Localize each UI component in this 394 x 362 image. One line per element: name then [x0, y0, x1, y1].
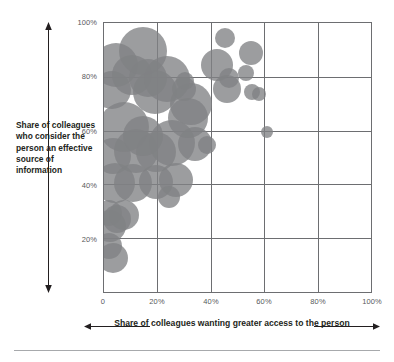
chart-root: Share of colleagues who consider the per… [0, 0, 394, 362]
x-tick-label-60: 60% [244, 297, 284, 306]
y-tick-label-20: 20% [45, 235, 97, 244]
gridline-vertical [371, 23, 372, 292]
bubble-point [261, 126, 273, 138]
bubble-point [158, 186, 180, 208]
x-tick-label-80: 80% [298, 297, 338, 306]
bubble-point [238, 65, 254, 81]
bottom-divider [14, 350, 380, 351]
x-axis-block: Share of colleagues wanting greater acce… [82, 318, 382, 348]
x-axis-title: Share of colleagues wanting greater acce… [82, 318, 382, 330]
bubble-point [198, 136, 216, 154]
bubble-series [104, 23, 371, 292]
y-tick-label-60: 60% [45, 127, 97, 136]
bubble-point [252, 87, 266, 101]
x-tick-label-0: 0 [83, 297, 123, 306]
bubble-point [119, 27, 167, 75]
bubble-point [239, 41, 263, 65]
y-tick-label-80: 80% [45, 72, 97, 81]
bubble-point [215, 28, 235, 48]
x-tick-label-20: 20% [137, 297, 177, 306]
bubble-point [123, 116, 163, 156]
plot-area [103, 22, 372, 293]
x-tick-label-40: 40% [191, 297, 231, 306]
bubble-point [109, 200, 139, 230]
x-tick-label-100: 100% [352, 297, 392, 306]
bubble-point [104, 243, 128, 273]
y-tick-label-40: 40% [45, 181, 97, 190]
bubble-point [201, 49, 233, 81]
y-tick-label-100: 100% [45, 18, 97, 27]
